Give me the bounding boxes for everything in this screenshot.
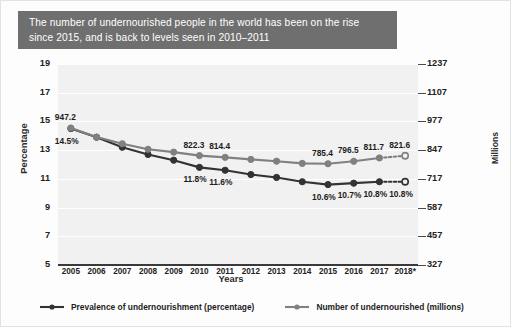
y-axis-left-tick-label: 17 (4, 87, 50, 97)
data-point (351, 180, 357, 186)
data-point (325, 161, 331, 167)
y-axis-right-title: Millions (490, 103, 500, 193)
data-point (273, 158, 279, 164)
data-point-projected (402, 179, 408, 185)
y-axis-right-tick-mark (418, 236, 426, 237)
data-point (93, 134, 99, 140)
y-axis-right-tick-label: 1107 (427, 87, 473, 97)
data-point (299, 179, 305, 185)
data-point (119, 141, 125, 147)
y-axis-right-tick-label: 847 (427, 144, 473, 154)
data-label-percentage: 11.6% (209, 177, 232, 187)
chart-title-banner: The number of undernourished people in t… (18, 11, 397, 49)
data-label-percentage: 10.7% (338, 190, 362, 200)
data-label-millions: 796.5 (338, 145, 359, 155)
data-label-millions: 947.2 (55, 112, 76, 122)
data-point (145, 146, 151, 152)
data-point (222, 167, 228, 173)
data-label-millions: 811.7 (363, 142, 384, 152)
data-point (222, 154, 228, 160)
series-lines (58, 64, 418, 265)
data-point (351, 158, 357, 164)
data-point (376, 155, 382, 161)
x-axis-tick-label: 2018* (385, 267, 425, 276)
y-axis-left-tick-label: 9 (4, 202, 50, 212)
y-axis-right-tick-label: 327 (427, 259, 473, 269)
data-point (248, 171, 254, 177)
y-axis-right-tick-mark (418, 208, 426, 209)
y-axis-left-tick-label: 19 (4, 58, 50, 68)
data-label-percentage: 10.8% (363, 189, 387, 199)
y-axis-left-tick-label: 15 (4, 115, 50, 125)
y-axis-right-tick-label: 457 (427, 230, 473, 240)
legend-swatch-icon (39, 302, 65, 312)
y-axis-right-tick-label: 587 (427, 202, 473, 212)
y-axis-right-tick-mark (418, 265, 426, 266)
data-point (196, 164, 202, 170)
y-axis-right-tick-label: 977 (427, 115, 473, 125)
chart-title-line-1: The number of undernourished people in t… (29, 16, 387, 31)
y-axis-right-tick-mark (418, 179, 426, 180)
chart-title-line-2: since 2015, and is back to levels seen i… (29, 31, 387, 46)
data-point (171, 157, 177, 163)
data-label-percentage: 10.6% (312, 192, 336, 202)
data-point-projected (402, 153, 408, 159)
legend-item[interactable]: Number of undernourished (millions) (284, 302, 464, 312)
y-axis-left-tick-label: 5 (4, 259, 50, 269)
data-point (376, 179, 382, 185)
data-point (325, 182, 331, 188)
data-point (196, 152, 202, 158)
legend-swatch-icon (284, 302, 310, 312)
data-point (273, 174, 279, 180)
data-label-millions: 821.6 (389, 140, 410, 150)
chart-legend: Prevalence of undernourishment (percenta… (39, 299, 459, 315)
y-axis-right-tick-mark (418, 150, 426, 151)
y-axis-right-tick-label: 717 (427, 173, 473, 183)
data-point (299, 160, 305, 166)
y-axis-left-tick-label: 7 (4, 230, 50, 240)
chart-figure: The number of undernourished people in t… (0, 0, 511, 327)
legend-label: Number of undernourished (millions) (316, 302, 464, 312)
data-point (171, 149, 177, 155)
legend-item[interactable]: Prevalence of undernourishment (percenta… (39, 302, 254, 312)
y-axis-right-tick-label: 1237 (427, 58, 473, 68)
data-label-percentage: 14.5% (55, 136, 79, 146)
y-axis-left-tick-label: 13 (4, 144, 50, 154)
data-label-millions: 814.4 (209, 141, 230, 151)
y-axis-right-tick-mark (418, 64, 426, 65)
y-axis-left-tick-label: 11 (4, 173, 50, 183)
data-label-percentage: 10.8% (389, 189, 413, 199)
legend-label: Prevalence of undernourishment (percenta… (71, 302, 254, 312)
data-point (248, 156, 254, 162)
data-label-millions: 822.3 (183, 140, 204, 150)
data-point (68, 125, 74, 131)
data-label-percentage: 11.8% (183, 174, 206, 184)
y-axis-right-tick-mark (418, 93, 426, 94)
y-axis-right-tick-mark (418, 121, 426, 122)
data-label-millions: 785.4 (312, 148, 333, 158)
